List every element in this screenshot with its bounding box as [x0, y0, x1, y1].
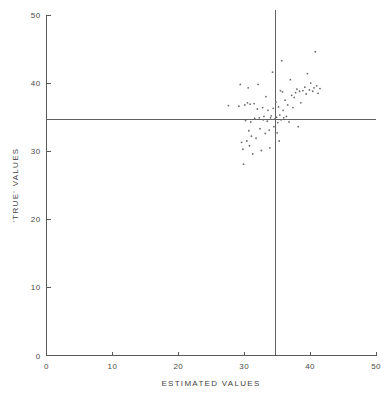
- data-point: [293, 97, 295, 99]
- y-tick-label: 10: [31, 283, 41, 292]
- data-point: [285, 116, 287, 118]
- y-tick-label: 0: [36, 352, 41, 361]
- data-point: [244, 104, 246, 106]
- plot-canvas: 01020304050 01020304050 ESTIMATED VALUES…: [0, 0, 389, 404]
- data-point: [316, 85, 318, 87]
- data-point: [295, 92, 297, 94]
- reference-lines-group: [47, 10, 377, 356]
- data-point: [247, 87, 249, 89]
- data-point: [274, 118, 276, 120]
- data-point: [270, 117, 272, 119]
- data-point: [265, 96, 267, 98]
- data-point: [267, 109, 269, 111]
- data-point: [272, 71, 274, 73]
- data-point: [254, 118, 256, 120]
- data-point: [284, 99, 286, 101]
- data-point: [243, 163, 245, 165]
- data-point: [242, 148, 244, 150]
- data-point: [299, 90, 301, 92]
- scatter-plot-figure: 01020304050 01020304050 ESTIMATED VALUES…: [0, 0, 389, 404]
- data-point: [279, 114, 281, 116]
- data-point: [317, 92, 319, 94]
- data-point: [310, 82, 312, 84]
- x-tick-label: 30: [239, 362, 249, 371]
- data-point: [264, 133, 266, 135]
- data-point: [304, 86, 306, 88]
- data-point: [297, 126, 299, 128]
- data-point: [277, 122, 279, 124]
- x-tick-label: 40: [305, 362, 315, 371]
- data-point: [314, 51, 316, 53]
- y-tick-label: 50: [31, 11, 41, 20]
- data-point: [246, 140, 248, 142]
- x-tick-label: 20: [173, 362, 183, 371]
- data-point: [287, 104, 289, 106]
- data-point: [278, 140, 280, 142]
- data-point: [249, 145, 251, 147]
- data-point: [257, 84, 259, 86]
- data-point: [296, 88, 298, 90]
- data-point: [307, 73, 309, 75]
- data-point: [283, 117, 285, 119]
- axes-group: [47, 15, 377, 356]
- y-tick-label: 30: [31, 147, 41, 156]
- x-axis-ticks-group: 01020304050: [44, 352, 381, 371]
- data-point: [288, 121, 290, 123]
- data-point: [262, 119, 264, 121]
- data-point: [268, 129, 270, 131]
- data-point: [273, 126, 275, 128]
- data-point: [319, 88, 321, 90]
- data-point: [276, 116, 278, 118]
- y-axis-ticks-group: 01020304050: [31, 11, 51, 361]
- x-tick-label: 10: [108, 362, 118, 371]
- data-points-group: [227, 51, 320, 165]
- data-point: [270, 115, 272, 117]
- data-point: [275, 101, 277, 103]
- data-point: [260, 150, 262, 152]
- data-point: [252, 153, 254, 155]
- data-point: [302, 90, 304, 92]
- x-tick-label: 50: [371, 362, 381, 371]
- data-point: [276, 132, 278, 134]
- data-point: [289, 79, 291, 81]
- data-point: [313, 87, 315, 89]
- data-point: [239, 84, 241, 86]
- data-point: [249, 103, 251, 105]
- data-point: [281, 60, 283, 62]
- data-point: [305, 93, 307, 95]
- y-tick-label: 20: [31, 215, 41, 224]
- data-point: [282, 91, 284, 93]
- y-axis-title: 'TRUE' VALUES: [11, 148, 20, 223]
- data-point: [248, 130, 250, 132]
- data-point: [259, 128, 261, 130]
- x-axis-title: ESTIMATED VALUES: [161, 379, 260, 388]
- x-tick-label: 0: [44, 362, 49, 371]
- data-point: [300, 102, 302, 104]
- data-point: [247, 102, 249, 104]
- data-point: [272, 107, 274, 109]
- data-point: [250, 121, 252, 123]
- data-point: [241, 141, 243, 143]
- data-point: [238, 105, 240, 107]
- data-point: [292, 107, 294, 109]
- data-point: [280, 119, 282, 121]
- y-tick-label: 40: [31, 79, 41, 88]
- data-point: [282, 109, 284, 111]
- data-point: [251, 135, 253, 137]
- data-point: [278, 106, 280, 108]
- data-point: [263, 116, 265, 118]
- data-point: [266, 120, 268, 122]
- data-point: [312, 90, 314, 92]
- data-point: [280, 90, 282, 92]
- data-point: [256, 108, 258, 110]
- data-point: [262, 107, 264, 109]
- data-point: [255, 137, 257, 139]
- data-point: [309, 89, 311, 91]
- data-point: [269, 147, 271, 149]
- data-point: [245, 120, 247, 122]
- data-point: [253, 103, 255, 105]
- data-point: [291, 94, 293, 96]
- data-point: [227, 105, 229, 107]
- data-point: [258, 117, 260, 119]
